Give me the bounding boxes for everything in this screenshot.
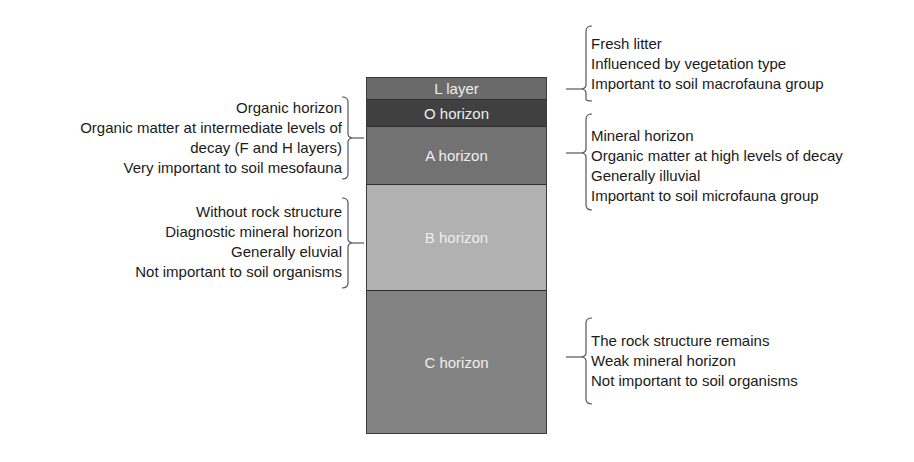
annotation-line: Mineral horizon (591, 126, 843, 146)
a-horizon-annotation: Mineral horizon Organic matter at high l… (591, 126, 843, 206)
c-horizon-annotation: The rock structure remains Weak mineral … (591, 331, 798, 391)
annotation-line: Not important to soil organisms (591, 371, 798, 391)
annotation-line: Generally illuvial (591, 166, 843, 186)
l-layer-label: L layer (434, 80, 478, 97)
annotation-line: Without rock structure (135, 202, 342, 222)
b-horizon-label: B horizon (425, 229, 488, 246)
annotation-line: Organic matter at intermediate levels of (80, 118, 342, 138)
a-horizon-label: A horizon (425, 147, 488, 164)
annotation-line: Weak mineral horizon (591, 351, 798, 371)
annotation-line: Generally eluvial (135, 242, 342, 262)
l-layer-annotation: Fresh litter Influenced by vegetation ty… (591, 34, 824, 94)
right-brace-icon (340, 96, 364, 180)
o-horizon: O horizon (367, 100, 546, 127)
annotation-line: Important to soil macrofauna group (591, 74, 824, 94)
annotation-line: Organic horizon (80, 98, 342, 118)
c-horizon-label: C horizon (424, 354, 488, 371)
left-brace-icon (566, 113, 594, 211)
annotation-line: Important to soil microfauna group (591, 186, 843, 206)
soil-profile-column: L layer O horizon A horizon B horizon C … (366, 77, 547, 434)
o-horizon-label: O horizon (424, 105, 489, 122)
b-horizon: B horizon (367, 185, 546, 291)
annotation-line: The rock structure remains (591, 331, 798, 351)
c-horizon: C horizon (367, 291, 546, 433)
annotation-line: Fresh litter (591, 34, 824, 54)
left-brace-icon (566, 317, 594, 405)
annotation-line: Very important to soil mesofauna (80, 158, 342, 178)
b-horizon-annotation: Without rock structure Diagnostic minera… (135, 202, 342, 282)
annotation-line: Organic matter at high levels of decay (591, 146, 843, 166)
left-brace-icon (566, 25, 594, 101)
annotation-line: decay (F and H layers) (80, 138, 342, 158)
a-horizon: A horizon (367, 127, 546, 185)
l-layer: L layer (367, 78, 546, 100)
right-brace-icon (340, 197, 364, 289)
annotation-line: Influenced by vegetation type (591, 54, 824, 74)
annotation-line: Diagnostic mineral horizon (135, 222, 342, 242)
annotation-line: Not important to soil organisms (135, 262, 342, 282)
o-horizon-annotation: Organic horizon Organic matter at interm… (80, 98, 342, 178)
